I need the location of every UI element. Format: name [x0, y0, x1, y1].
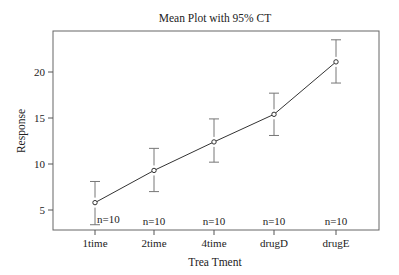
- mean-point: [334, 60, 338, 64]
- n-annotations: n=10n=10n=10n=10n=10: [97, 213, 348, 227]
- x-tick-label: 2time: [141, 237, 166, 249]
- n-label: n=10: [263, 215, 286, 227]
- data-series: [90, 40, 341, 225]
- n-label: n=10: [325, 215, 348, 227]
- mean-point: [212, 140, 216, 144]
- x-tick-label: drugE: [323, 237, 350, 249]
- n-label: n=10: [203, 215, 226, 227]
- y-axis: 5101520: [34, 66, 53, 216]
- x-tick-label: drugD: [260, 237, 288, 249]
- mean-line: [95, 62, 336, 203]
- plot-frame: [53, 31, 379, 230]
- mean-plot: Mean Plot with 95% CT 5101520 1time2time…: [0, 0, 399, 275]
- x-axis-label: Trea Tment: [188, 256, 242, 268]
- n-label: n=10: [143, 215, 166, 227]
- y-axis-label: Response: [15, 109, 28, 153]
- mean-point: [272, 112, 276, 116]
- y-tick-label: 10: [34, 158, 46, 170]
- x-tick-label: 1time: [82, 237, 107, 249]
- chart-title: Mean Plot with 95% CT: [159, 12, 271, 24]
- y-tick-label: 5: [40, 204, 46, 216]
- y-tick-label: 20: [34, 66, 46, 78]
- x-axis: 1time2time4timedrugDdrugE: [82, 230, 349, 249]
- mean-point: [93, 200, 97, 204]
- x-tick-label: 4time: [201, 237, 226, 249]
- y-tick-label: 15: [34, 112, 46, 124]
- n-label: n=10: [97, 213, 120, 225]
- mean-point: [152, 168, 156, 172]
